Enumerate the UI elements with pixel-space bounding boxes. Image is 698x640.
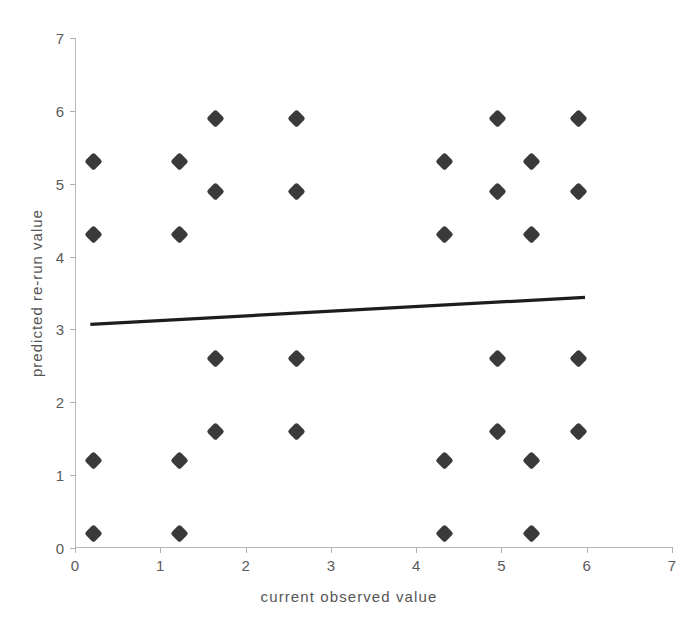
y-tick-label: 7 xyxy=(56,30,64,47)
x-tick-label: 2 xyxy=(241,557,249,574)
x-tick-label: 3 xyxy=(327,557,335,574)
scatter-plot-figure: 01234567 01234567 predicted re-run value… xyxy=(0,0,698,640)
x-tick xyxy=(672,547,673,553)
x-axis-title: current observed value xyxy=(0,588,698,605)
x-tick-label: 6 xyxy=(583,557,591,574)
y-tick-label: 5 xyxy=(56,175,64,192)
trend-line-segment xyxy=(90,297,585,324)
y-tick-label: 4 xyxy=(56,248,64,265)
x-tick-label: 4 xyxy=(412,557,420,574)
plot-area: 01234567 01234567 xyxy=(75,38,672,548)
y-tick-label: 6 xyxy=(56,102,64,119)
y-tick-label: 0 xyxy=(56,540,64,557)
x-tick-label: 5 xyxy=(497,557,505,574)
x-tick-label: 0 xyxy=(71,557,79,574)
y-tick-label: 3 xyxy=(56,321,64,338)
y-axis-title: predicted re-run value xyxy=(22,38,52,548)
y-tick-label: 1 xyxy=(56,467,64,484)
y-tick-label: 2 xyxy=(56,394,64,411)
x-tick-label: 7 xyxy=(668,557,676,574)
x-tick-label: 1 xyxy=(156,557,164,574)
